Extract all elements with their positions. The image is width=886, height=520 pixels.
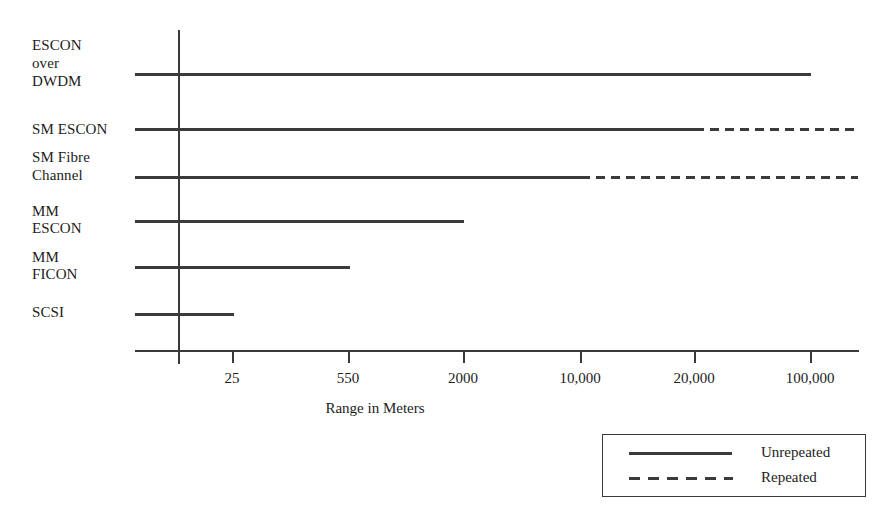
legend-swatch-unrepeated-icon	[629, 452, 732, 455]
legend: Unrepeated Repeated	[602, 434, 866, 497]
bar-sm-fibre-channel-repeated	[581, 176, 858, 179]
x-axis-tick-10000	[580, 351, 582, 363]
y-axis-line	[178, 30, 180, 364]
x-axis-tick-550	[348, 351, 350, 363]
category-label-sm-escon: SM ESCON	[32, 120, 152, 138]
bar-mm-ficon-unrepeated	[135, 266, 350, 269]
x-axis-tick-label-100000: 100,000	[764, 370, 856, 387]
x-axis-tick-100000	[810, 351, 812, 363]
legend-label-unrepeated: Unrepeated	[761, 444, 830, 461]
category-label-sm-fibre-channel: SM Fibre Channel	[32, 148, 142, 184]
x-axis-tick-20000	[694, 351, 696, 363]
category-label-scsi: SCSI	[32, 303, 132, 321]
category-label-mm-ficon: MM FICON	[32, 249, 132, 283]
bar-sm-escon-repeated	[695, 128, 858, 131]
x-axis-tick-label-25: 25	[192, 370, 272, 387]
category-label-escon-over-dwdm: ESCON over DWDM	[32, 36, 132, 90]
bar-sm-fibre-channel-unrepeated	[135, 176, 581, 179]
x-axis-tick-label-550: 550	[308, 370, 388, 387]
x-axis-line	[135, 350, 859, 352]
legend-row-unrepeated: Unrepeated	[603, 443, 865, 467]
x-axis-tick-label-10000: 10,000	[538, 370, 622, 387]
bar-chart: ESCON over DWDM SM ESCON SM Fibre Channe…	[0, 0, 886, 520]
bar-mm-escon-unrepeated	[135, 220, 464, 223]
x-axis-tick-label-20000: 20,000	[652, 370, 736, 387]
x-axis-tick-25	[232, 351, 234, 363]
x-axis-title: Range in Meters	[275, 400, 475, 417]
bar-scsi-unrepeated	[135, 313, 234, 316]
category-label-mm-escon: MM ESCON	[32, 203, 132, 237]
legend-swatch-repeated-icon	[629, 477, 733, 480]
legend-row-repeated: Repeated	[603, 468, 865, 492]
bar-escon-over-dwdm-unrepeated	[135, 73, 811, 76]
x-axis-tick-2000	[463, 351, 465, 363]
x-axis-tick-label-2000: 2000	[423, 370, 503, 387]
legend-label-repeated: Repeated	[761, 469, 817, 486]
bar-sm-escon-unrepeated	[135, 128, 695, 131]
